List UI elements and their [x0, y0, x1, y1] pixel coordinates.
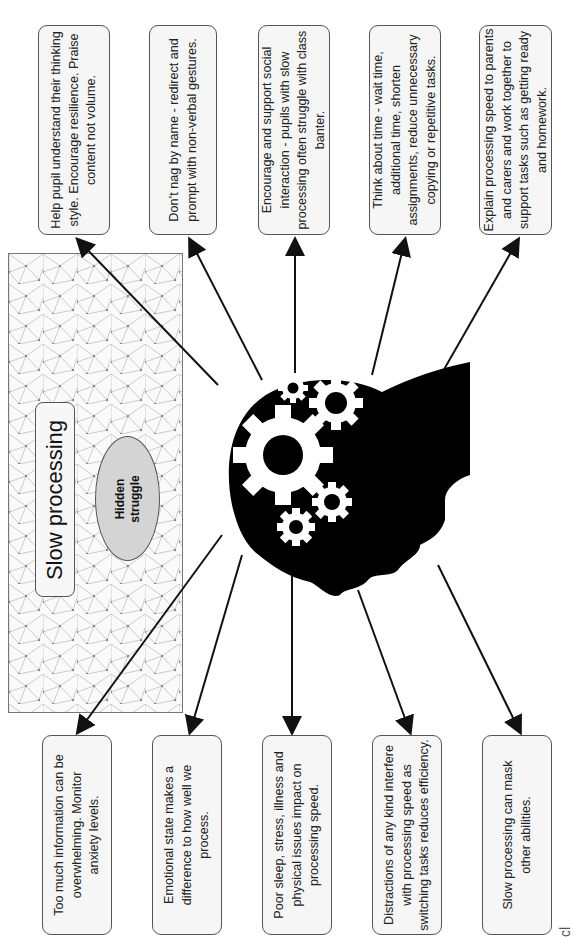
corner-text-fragment: cl: [557, 927, 573, 937]
strategy-box-dont-nag: Don’t nag by name - redirect and prompt …: [149, 25, 217, 235]
factor-box-distractions: Distractions of any kind interfere with …: [372, 735, 442, 935]
factor-text: Too much information can be overwhelming…: [51, 750, 104, 920]
factor-box-too-much-information: Too much information can be overwhelming…: [42, 735, 112, 935]
diagram-canvas: Slow processing Hidden struggle: [0, 0, 580, 950]
factor-text: Slow processing can mask other abilities…: [500, 750, 535, 920]
strategy-text: Encourage and support social interaction…: [259, 30, 329, 230]
strategy-box-explain-to-parents: Explain processing speed to parents and …: [479, 25, 552, 235]
strategy-text: Explain processing speed to parents and …: [481, 28, 551, 232]
arrows-top: [78, 240, 518, 385]
factor-box-mask-abilities: Slow processing can mask other abilities…: [482, 735, 552, 935]
factor-box-poor-sleep: Poor sleep, stress, illness and physical…: [262, 735, 332, 935]
strategy-text: Think about time - wait time, additional…: [370, 30, 440, 230]
factor-text: Distractions of any kind interfere with …: [381, 738, 434, 933]
factor-text: Emotional state makes a difference to ho…: [161, 750, 214, 920]
strategy-text: Don’t nag by name - redirect and prompt …: [166, 34, 201, 226]
strategy-box-thinking-style: Help pupil understand their thinking sty…: [38, 25, 110, 235]
factor-text: Poor sleep, stress, illness and physical…: [271, 745, 324, 925]
strategy-box-social-interaction: Encourage and support social interaction…: [258, 25, 330, 235]
factor-box-emotional-state: Emotional state makes a difference to ho…: [152, 735, 222, 935]
strategy-box-think-about-time: Think about time - wait time, additional…: [369, 25, 441, 235]
strategy-text: Help pupil understand their thinking sty…: [48, 30, 101, 230]
